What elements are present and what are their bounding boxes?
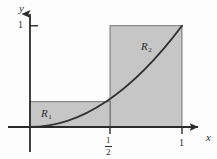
y-tick-label-one: 1 [18,20,23,30]
fraction-numerator: 1 [105,136,112,145]
region-r1-letter: R [41,107,48,119]
region-label-r1: R1 [41,108,51,119]
x-axis-label: x [206,132,211,143]
region-r2-letter: R [141,40,148,52]
region-r2-subscript: 2 [148,46,152,54]
x-tick-label-half: 1 2 [105,136,112,157]
region-r1-subscript: 1 [48,113,52,121]
fraction-denominator: 2 [105,148,112,157]
region-label-r2: R2 [141,41,151,52]
y-axis-label: y [19,3,24,14]
figure-container: y x 1 1 2 1 R1 R2 [0,0,217,159]
x-tick-label-one: 1 [179,138,184,148]
